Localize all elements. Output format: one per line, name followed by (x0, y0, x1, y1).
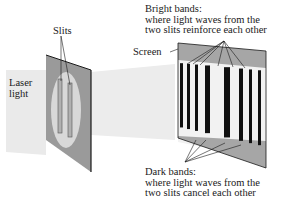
dark-band (195, 65, 198, 131)
dark-band (258, 70, 261, 145)
dark-bands-heading: Dark bands: (145, 167, 260, 178)
bright-bands-heading: Bright bands: (145, 4, 267, 15)
slits-label: Slits (53, 26, 72, 37)
dark-bands-label: Dark bands: where light waves from the t… (145, 167, 260, 199)
dark-band (239, 69, 243, 141)
laser-label-line2: light (9, 89, 32, 100)
laser-label-line1: Laser (9, 78, 32, 89)
screen-pointer (170, 49, 178, 52)
slit-right (68, 83, 72, 137)
bright-bands-desc-2: two slits reinforce each other (145, 25, 267, 36)
dark-band (180, 63, 183, 127)
dark-bands-desc-2: two slits cancel each other (145, 188, 260, 199)
dark-band (205, 65, 210, 133)
dark-band (187, 64, 190, 129)
dark-band (249, 69, 252, 143)
dark-band (224, 67, 230, 137)
laser-label: Laser light (9, 78, 32, 99)
bright-bands-label: Bright bands: where light waves from the… (145, 4, 267, 36)
light-halo (51, 72, 81, 148)
slit-left (58, 79, 62, 133)
double-slit-diagram: Laser light Slits Screen Bright bands: w… (0, 0, 284, 200)
diffracted-light (91, 64, 175, 140)
screen-label: Screen (133, 47, 162, 58)
